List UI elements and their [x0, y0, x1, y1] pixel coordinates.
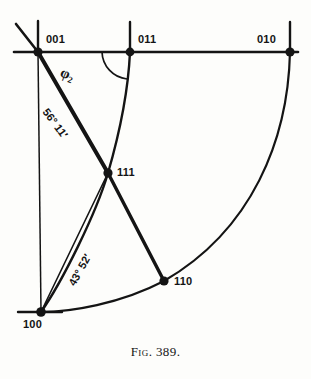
pole-label-111: 111 [117, 166, 135, 178]
arc-011-111-100 [41, 52, 130, 312]
line-100-111 [41, 173, 108, 312]
pole-label-001: 001 [46, 33, 65, 45]
tick-diagonal-001 [16, 24, 38, 52]
pole-dot-001 [33, 47, 42, 56]
angle-arc-phi2 [102, 52, 127, 79]
pole-label-110: 110 [174, 275, 192, 287]
pole-dot-100 [36, 307, 46, 317]
pole-dot-111 [103, 168, 112, 177]
stereographic-projection-drawing [0, 0, 311, 379]
pole-label-100: 100 [23, 318, 42, 330]
figure-389: 001 011 010 111 110 100 φ2 56° 11′ 43° 5… [0, 0, 311, 379]
pole-dot-011 [126, 48, 135, 57]
line-111-110 [108, 173, 164, 281]
pole-label-011: 011 [138, 33, 156, 45]
pole-dot-110 [159, 276, 168, 285]
pole-label-010: 010 [257, 33, 276, 45]
figure-caption: Fig. 389. [0, 344, 311, 360]
pole-dot-010 [285, 47, 294, 56]
caption-prefix: Fig. [131, 344, 153, 359]
arc-001-100 [38, 52, 41, 312]
caption-number: 389. [156, 344, 180, 359]
